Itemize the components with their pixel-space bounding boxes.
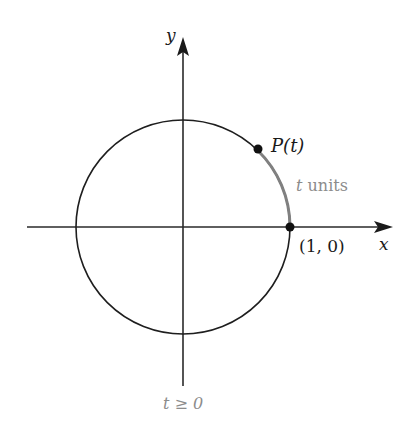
point-p-label: P(t) xyxy=(270,135,304,156)
unit-circle-diagram: y x P(t) t units (1, 0) t ≥ 0 xyxy=(0,0,415,432)
point-p-dot xyxy=(254,145,263,154)
arc-label-unit: units xyxy=(302,176,347,195)
point-1-0-dot xyxy=(286,223,295,232)
point-1-0-label: (1, 0) xyxy=(299,236,345,256)
arc-t-units xyxy=(257,150,290,227)
y-axis-label: y xyxy=(165,25,176,45)
condition-label: t ≥ 0 xyxy=(163,394,203,413)
x-axis-label: x xyxy=(379,234,389,254)
arc-label: t units xyxy=(296,176,348,195)
